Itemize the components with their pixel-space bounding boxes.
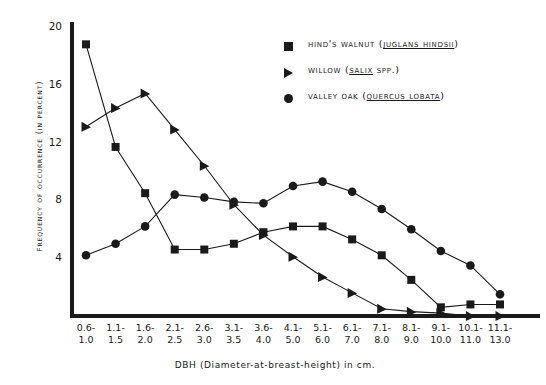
legend-scientific-name: Juglans Hindsii	[383, 38, 454, 49]
data-point	[378, 251, 386, 259]
series-2	[82, 88, 506, 321]
data-point	[466, 311, 476, 321]
data-point	[377, 205, 386, 214]
legend-item: Valley oak (Quercus lobata)	[282, 90, 540, 116]
data-point	[200, 161, 210, 171]
legend-item: Willow (Salix spp.)	[282, 64, 540, 90]
data-point	[112, 143, 120, 151]
legend-scientific-name: Quercus lobata	[367, 90, 441, 101]
data-point	[407, 225, 416, 234]
data-point	[82, 251, 91, 260]
data-point	[289, 222, 297, 230]
legend-item: Hind's walnut (Juglans Hindsii)	[282, 38, 540, 64]
chart-legend: Hind's walnut (Juglans Hindsii)Willow (S…	[282, 38, 540, 116]
data-point	[230, 198, 239, 207]
data-point	[407, 276, 415, 284]
data-point	[200, 246, 208, 254]
data-point	[437, 247, 446, 256]
series-line	[86, 93, 500, 316]
data-point	[289, 182, 298, 191]
data-point	[496, 290, 505, 299]
legend-common-name: Hind's walnut (	[308, 38, 383, 49]
data-point	[259, 199, 268, 208]
data-point	[377, 304, 387, 314]
data-point	[200, 193, 209, 202]
data-point	[141, 189, 149, 197]
legend-common-name: Willow (	[308, 64, 349, 75]
data-point	[141, 222, 150, 231]
data-point	[348, 235, 356, 243]
data-point	[466, 300, 474, 308]
data-point	[111, 103, 121, 113]
legend-suffix: spp.)	[373, 64, 400, 75]
data-point	[348, 187, 357, 196]
data-point	[318, 272, 328, 282]
data-point	[466, 261, 475, 270]
data-point	[230, 240, 238, 248]
data-point	[289, 252, 299, 262]
data-point	[496, 300, 504, 308]
data-point	[170, 190, 179, 199]
legend-suffix: )	[440, 90, 444, 101]
data-point	[82, 122, 92, 132]
square-marker-icon	[284, 42, 293, 51]
legend-suffix: )	[454, 38, 458, 49]
triangle-marker-icon	[284, 68, 293, 78]
circle-marker-icon	[284, 94, 293, 103]
data-point	[111, 239, 120, 248]
legend-scientific-name: Salix	[349, 64, 373, 75]
data-point	[82, 40, 90, 48]
data-point	[318, 177, 327, 186]
chart-figure: Frequency of occurrence (in percent) 481…	[0, 0, 546, 385]
data-point	[496, 311, 506, 321]
data-point	[171, 246, 179, 254]
data-point	[348, 288, 358, 298]
legend-common-name: Valley oak (	[308, 90, 367, 101]
x-tick-label: 11.1- 13.0	[483, 322, 517, 345]
data-point	[319, 222, 327, 230]
x-axis-title: DBH (Diameter-at-breast-height) in cm.	[60, 360, 490, 370]
